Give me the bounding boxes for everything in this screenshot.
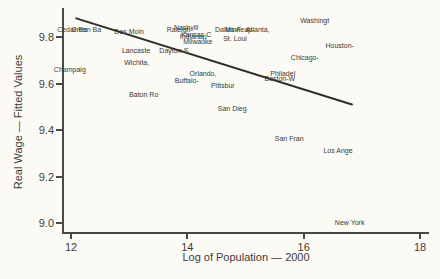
data-point-label: Green Ba	[71, 26, 101, 34]
data-point-label: Champaig	[54, 66, 86, 74]
data-point-label: Wichita,	[124, 59, 149, 67]
data-point-label: St. Loui	[223, 35, 247, 43]
data-point-label: New York	[335, 219, 365, 227]
data-point-label: San Fran	[275, 135, 304, 143]
data-point-label: Milwauke	[183, 38, 212, 46]
data-point-label: Buffalo-	[175, 77, 199, 85]
data-point-label: San Dieg	[218, 105, 247, 113]
scatter-plot-figure: Real Wage — Fitted Values Log of Populat…	[0, 0, 440, 279]
data-point-label: Baton Ro	[129, 91, 158, 99]
data-point-label: Houston-	[326, 42, 354, 50]
data-point-label: Lancaste	[122, 47, 150, 55]
fitted-line-layer	[0, 0, 440, 279]
data-point-label: Des Moin	[114, 28, 144, 36]
data-point-label: Los Ange	[323, 147, 352, 155]
data-point-label: Dayton-S	[159, 47, 188, 55]
data-point-label: Boston-W	[264, 75, 295, 83]
data-point-label: Chicago-	[291, 54, 319, 62]
data-point-label: Washingt	[300, 17, 329, 25]
data-point-label: Atlanta,	[246, 26, 270, 34]
data-point-label: Pittsbur	[211, 82, 235, 90]
